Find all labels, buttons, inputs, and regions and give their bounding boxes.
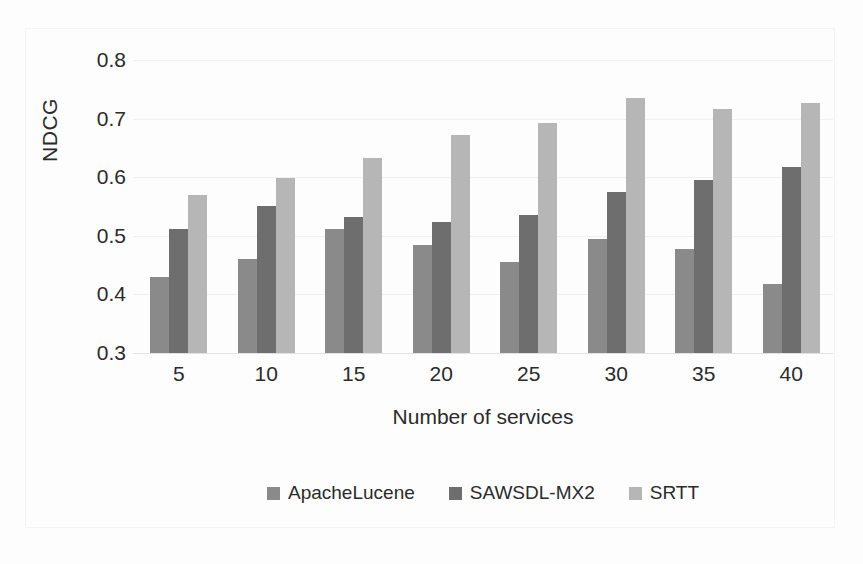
legend-item[interactable]: ApacheLucene [267,482,415,504]
plot-area [133,60,833,353]
bar[interactable] [694,180,713,353]
bar[interactable] [500,262,519,353]
x-axis-tick-label: 35 [674,362,734,386]
y-axis-tick-label: 0.6 [78,165,126,189]
legend-label: SRTT [650,482,699,504]
y-axis-tick-labels: 0.80.70.60.50.40.3 [78,0,126,564]
x-axis-title: Number of services [133,405,833,429]
bar[interactable] [169,229,188,353]
bar-group [413,60,470,353]
legend-swatch-icon [267,487,280,500]
chart-figure: NDCG 0.80.70.60.50.40.3 510152025303540 … [0,0,863,564]
bar[interactable] [763,284,782,353]
bar-group [150,60,207,353]
bar[interactable] [150,277,169,353]
legend-item[interactable]: SAWSDL-MX2 [449,482,595,504]
y-axis-tick-label: 0.7 [78,107,126,131]
y-axis-tick-label: 0.3 [78,341,126,365]
chart-legend: ApacheLuceneSAWSDL-MX2SRTT [133,482,833,504]
x-axis-tick-label: 15 [324,362,384,386]
bar[interactable] [188,195,207,353]
y-axis-tick-label: 0.5 [78,224,126,248]
x-axis-tick-label: 30 [586,362,646,386]
x-axis-tick-label: 10 [236,362,296,386]
bar[interactable] [257,206,276,353]
bar[interactable] [238,259,257,353]
bar-group [675,60,732,353]
bar[interactable] [713,109,732,353]
legend-label: SAWSDL-MX2 [470,482,595,504]
bar[interactable] [782,167,801,353]
bar[interactable] [607,192,626,353]
bar-group [325,60,382,353]
bar[interactable] [675,249,694,353]
bar[interactable] [538,123,557,353]
bar[interactable] [276,178,295,353]
y-axis-tick-label: 0.4 [78,282,126,306]
x-axis-tick-label: 5 [149,362,209,386]
bar[interactable] [344,217,363,353]
bar[interactable] [451,135,470,353]
x-axis-tick-label: 20 [411,362,471,386]
x-axis-tick-label: 40 [761,362,821,386]
legend-swatch-icon [449,487,462,500]
x-axis-tick-label: 25 [499,362,559,386]
bar[interactable] [801,103,820,353]
legend-label: ApacheLucene [288,482,415,504]
bar-group [500,60,557,353]
legend-item[interactable]: SRTT [629,482,699,504]
bar[interactable] [519,215,538,353]
bar-group [763,60,820,353]
bar[interactable] [626,98,645,353]
y-axis-title: NDCG [38,75,68,185]
legend-swatch-icon [629,487,642,500]
y-axis-tick-label: 0.8 [78,48,126,72]
bar[interactable] [588,239,607,353]
bar[interactable] [363,158,382,353]
bar[interactable] [413,245,432,353]
bar-group [588,60,645,353]
bar[interactable] [432,222,451,353]
bar[interactable] [325,229,344,353]
bar-group [238,60,295,353]
x-axis-line [133,353,833,354]
